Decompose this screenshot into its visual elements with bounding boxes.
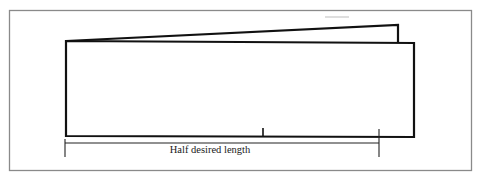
dimension-label: Half desired length (148, 144, 272, 155)
front-panel-outline (66, 41, 414, 137)
folded-strip-diagram: Half desired length (0, 0, 481, 179)
